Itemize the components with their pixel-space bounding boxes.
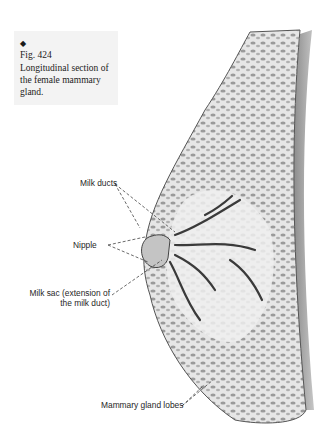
label-mammary-gland-lobes: Mammary gland lobes bbox=[101, 400, 183, 410]
label-milk-ducts: Milk ducts bbox=[80, 178, 117, 188]
label-milk-sac-line1: Milk sac (extension of bbox=[25, 288, 110, 298]
nipple-drawing bbox=[142, 235, 170, 268]
label-milk-sac-line2: the milk duct) bbox=[25, 298, 110, 308]
mammary-gland-illustration bbox=[0, 0, 334, 446]
label-nipple: Nipple bbox=[73, 240, 97, 250]
